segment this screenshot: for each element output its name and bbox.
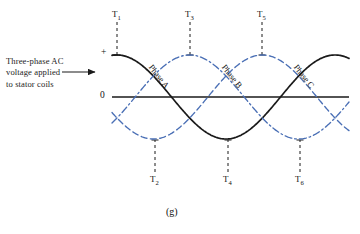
time-marker-label-t4: T4 — [223, 174, 232, 186]
time-marker-label-t6: T6 — [295, 174, 304, 186]
time-marker-label-t3: T3 — [185, 9, 194, 21]
time-marker-label-t2: T2 — [150, 174, 159, 186]
time-marker-label-t5: T5 — [257, 9, 266, 21]
time-marker-label-t1: T1 — [112, 9, 121, 21]
three-phase-waveform-chart — [0, 0, 360, 234]
